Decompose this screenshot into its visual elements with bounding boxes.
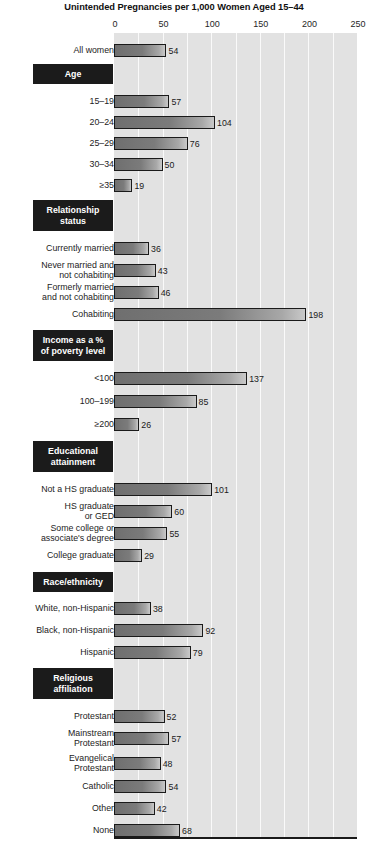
row-label: Other — [2, 804, 114, 814]
row-label: White, non-Hispanic — [2, 604, 114, 614]
chart-row: ≥20026 — [0, 418, 368, 433]
row-label: All women — [2, 46, 114, 56]
row-label: Protestant — [2, 712, 114, 722]
row-label: Some college or associate's degree — [2, 524, 114, 543]
bar — [114, 286, 159, 299]
chart-row: Never married and not cohabiting43 — [0, 264, 368, 279]
bar-value-label: 85 — [199, 397, 209, 407]
bar-value-label: 68 — [182, 826, 192, 836]
bar-value-label: 38 — [153, 604, 163, 614]
x-axis-tick-label: 200 — [302, 19, 317, 29]
bar-value-label: 19 — [134, 181, 144, 191]
x-axis-tick-label: 150 — [253, 19, 268, 29]
row-label: College graduate — [2, 551, 114, 561]
bar — [114, 418, 139, 431]
row-label: 25–29 — [2, 139, 114, 149]
chart-row: Not a HS graduate101 — [0, 483, 368, 498]
row-label: Never married and not cohabiting — [2, 261, 114, 280]
bar-value-label: 54 — [168, 46, 178, 56]
chart-row: Some college or associate's degree55 — [0, 527, 368, 542]
bar — [114, 116, 215, 129]
row-label: Formerly married and not cohabiting — [2, 283, 114, 302]
x-axis-tick-label: 0 — [112, 19, 117, 29]
bar-value-label: 42 — [157, 804, 167, 814]
bar — [114, 780, 166, 793]
bar-value-label: 48 — [163, 759, 173, 769]
bar-value-label: 36 — [151, 244, 161, 254]
row-label: Cohabiting — [2, 310, 114, 320]
row-label: Hispanic — [2, 648, 114, 658]
section-header: Race/ethnicity — [33, 572, 113, 592]
x-axis-tick-label: 100 — [205, 19, 220, 29]
bar — [114, 602, 151, 615]
bar — [114, 179, 132, 192]
x-axis-tick-label: 250 — [350, 19, 365, 29]
bar — [114, 264, 156, 277]
chart-row: Black, non-Hispanic92 — [0, 624, 368, 639]
row-label: Not a HS graduate — [2, 485, 114, 495]
bar-value-label: 60 — [174, 507, 184, 517]
bar-value-label: 54 — [168, 782, 178, 792]
bar-value-label: 198 — [308, 310, 323, 320]
bar — [114, 158, 163, 171]
bar-value-label: 43 — [158, 266, 168, 276]
bar-value-label: 137 — [249, 374, 264, 384]
row-label: None — [2, 826, 114, 836]
chart-row: Cohabiting198 — [0, 308, 368, 323]
bar — [114, 137, 188, 150]
bar — [114, 732, 169, 745]
section-header: Relationship status — [33, 200, 113, 231]
chart-root: Unintended Pregnancies per 1,000 Women A… — [0, 0, 368, 849]
chart-row: All women54 — [0, 44, 368, 59]
bar — [114, 527, 167, 540]
chart-row: 20–24104 — [0, 116, 368, 131]
bar-value-label: 29 — [144, 551, 154, 561]
bar — [114, 395, 197, 408]
bar — [114, 44, 166, 57]
chart-row: ≥3519 — [0, 179, 368, 194]
row-label: Mainstream Protestant — [2, 729, 114, 748]
row-label: Black, non-Hispanic — [2, 626, 114, 636]
chart-title: Unintended Pregnancies per 1,000 Women A… — [0, 2, 368, 12]
bar — [114, 646, 191, 659]
bar — [114, 757, 161, 770]
chart-row: Protestant52 — [0, 710, 368, 725]
bar — [114, 824, 180, 837]
bar — [114, 372, 247, 385]
x-axis-tick-label: 50 — [159, 19, 169, 29]
bar-value-label: 57 — [171, 734, 181, 744]
row-label: 15–19 — [2, 97, 114, 107]
row-label: 100–199 — [2, 397, 114, 407]
row-label: Evangelical Protestant — [2, 754, 114, 773]
row-label: <100 — [2, 374, 114, 384]
section-header: Religious affiliation — [33, 668, 113, 699]
chart-row: 25–2976 — [0, 137, 368, 152]
row-label: Catholic — [2, 782, 114, 792]
bar-value-label: 76 — [190, 139, 200, 149]
row-label: Currently married — [2, 244, 114, 254]
chart-row: Currently married36 — [0, 242, 368, 257]
bar-value-label: 46 — [161, 288, 171, 298]
bar-value-label: 57 — [171, 97, 181, 107]
chart-row: Hispanic79 — [0, 646, 368, 661]
chart-row: 15–1957 — [0, 95, 368, 110]
chart-row: College graduate29 — [0, 549, 368, 564]
chart-row: 30–3450 — [0, 158, 368, 173]
row-label: 30–34 — [2, 160, 114, 170]
bar-value-label: 92 — [205, 626, 215, 636]
bar-value-label: 26 — [141, 420, 151, 430]
bar-value-label: 55 — [169, 529, 179, 539]
bar — [114, 624, 203, 637]
chart-row: White, non-Hispanic38 — [0, 602, 368, 617]
row-label: ≥200 — [2, 420, 114, 430]
bar — [114, 505, 172, 518]
bar-value-label: 104 — [217, 118, 232, 128]
chart-row: Evangelical Protestant48 — [0, 757, 368, 772]
section-header: Income as a % of poverty level — [33, 330, 113, 361]
bar-value-label: 50 — [165, 160, 175, 170]
bar — [114, 549, 142, 562]
section-header: Age — [33, 64, 113, 84]
chart-row: <100137 — [0, 372, 368, 387]
x-axis-tick-labels: 050100150200250 — [0, 19, 368, 33]
chart-row: Mainstream Protestant57 — [0, 732, 368, 747]
